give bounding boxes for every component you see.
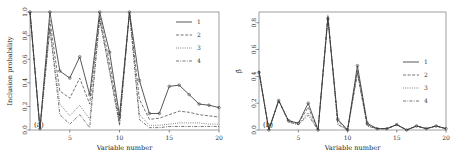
panel-b: 0.00.20.40.60.85101520Variable numberβ̂(…	[227, 0, 454, 168]
y-tick-label-3: 0.6	[21, 54, 28, 64]
panel-a-plot: 0.00.20.40.60.81.05101520Variable number…	[0, 0, 227, 168]
y-tick-label-0: 0.0	[21, 125, 28, 135]
legend-label-2: 2	[197, 31, 201, 38]
x-tick-label-1: 10	[116, 134, 124, 141]
x-tick-label-1: 10	[344, 134, 352, 141]
x-tick-label-2: 15	[393, 134, 401, 141]
y-tick-label-5: 1.0	[21, 7, 28, 17]
plot-frame	[259, 12, 446, 130]
y-tick-label-3: 0.6	[250, 45, 257, 55]
legend-label-1: 1	[424, 58, 428, 65]
y-axis-title: Inclusion probability	[6, 36, 14, 105]
legend-label-3: 3	[197, 44, 201, 51]
legend-label-4: 4	[424, 97, 428, 104]
x-tick-label-0: 5	[296, 134, 300, 141]
y-tick-label-0: 0.0	[250, 125, 257, 135]
y-tick-label-2: 0.4	[21, 78, 28, 88]
figure-panels: 0.00.20.40.60.81.05101520Variable number…	[0, 0, 454, 168]
legend-label-1: 1	[197, 18, 201, 25]
legend-label-2: 2	[424, 71, 428, 78]
y-tick-label-1: 0.2	[21, 101, 28, 111]
y-axis-title: β̂	[235, 69, 243, 73]
x-axis-title: Variable number	[324, 144, 381, 152]
y-tick-label-4: 0.8	[250, 18, 257, 28]
legend-label-3: 3	[424, 84, 428, 91]
series-line-2	[259, 17, 446, 130]
x-tick-label-3: 20	[442, 134, 450, 141]
x-axis-title: Variable number	[96, 144, 153, 152]
x-tick-label-2: 15	[165, 134, 173, 141]
y-tick-label-4: 0.8	[21, 31, 28, 41]
legend-label-4: 4	[197, 57, 201, 64]
y-tick-label-2: 0.4	[250, 71, 257, 81]
x-tick-label-3: 20	[215, 134, 223, 141]
panel-b-plot: 0.00.20.40.60.85101520Variable numberβ̂(…	[227, 0, 454, 168]
y-tick-label-1: 0.2	[250, 98, 257, 108]
x-tick-label-0: 5	[68, 134, 72, 141]
series-line-4	[259, 15, 446, 130]
series-line-1	[259, 19, 446, 130]
series-line-3	[259, 16, 446, 130]
series-line-3	[30, 12, 219, 129]
panel-a: 0.00.20.40.60.81.05101520Variable number…	[0, 0, 227, 168]
